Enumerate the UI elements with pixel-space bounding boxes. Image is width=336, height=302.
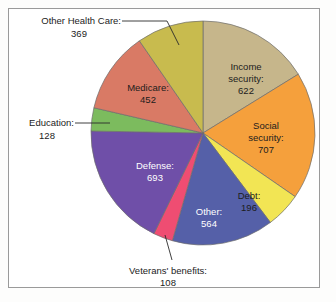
social-security-label-line2: security: <box>248 132 283 143</box>
veterans-benefits-label-line2: 108 <box>160 277 176 288</box>
other-health-care-label-line2: 369 <box>71 28 87 39</box>
social-security-label-line1: Social <box>253 120 279 131</box>
income-security-label-line3: 622 <box>238 85 254 96</box>
slice-label-other-health-care: Other Health Care: 369 <box>41 15 121 39</box>
other-health-care-label-line1: Other Health Care: <box>41 15 121 26</box>
slice-label-education: Education: 128 <box>29 117 74 141</box>
defense-label-line2: 693 <box>147 172 163 183</box>
defense-label-line1: Defense: <box>136 160 174 171</box>
other-label-line2: 564 <box>201 218 217 229</box>
income-security-label-line1: Income <box>230 61 261 72</box>
veterans-benefits-label-line1: Veterans' benefits: <box>129 265 207 276</box>
other-label-line1: Other: <box>196 206 222 217</box>
debt-label-line1: Debt: <box>238 190 261 201</box>
education-label-line2: 128 <box>39 130 55 141</box>
chart-page: Income security: 622 Social security: 70… <box>0 0 336 302</box>
medicare-label-line2: 452 <box>140 94 156 105</box>
education-label-line1: Education: <box>29 117 74 128</box>
pie-chart: Income security: 622 Social security: 70… <box>0 0 336 302</box>
slice-label-veterans-benefits: Veterans' benefits: 108 <box>129 265 207 288</box>
social-security-label-line3: 707 <box>258 144 274 155</box>
income-security-label-line2: security: <box>228 73 263 84</box>
debt-label-line2: 196 <box>241 202 257 213</box>
medicare-label-line1: Medicare: <box>127 82 169 93</box>
